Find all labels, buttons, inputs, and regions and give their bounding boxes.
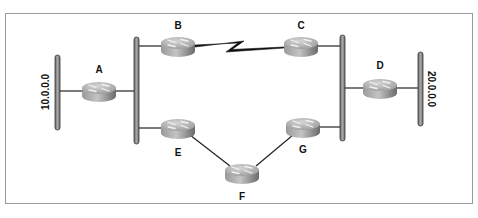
- router-label-f: F: [239, 191, 245, 202]
- bus-bar-right: [340, 35, 345, 141]
- serial-link-b-c: [195, 41, 284, 52]
- network-label-10: 10.0.0.0: [40, 73, 51, 110]
- router-icon: [284, 37, 318, 57]
- router-icon: [363, 79, 397, 99]
- router-label-g: G: [299, 144, 307, 155]
- router-icon: [161, 119, 195, 139]
- network-label-20: 20.0.0.0: [426, 71, 437, 108]
- router-e[interactable]: [161, 119, 195, 139]
- links: [59, 46, 418, 166]
- bus-bar-left: [134, 37, 139, 144]
- link-f-g: [256, 135, 293, 166]
- router-label-d: D: [376, 60, 383, 71]
- router-c[interactable]: [284, 37, 318, 57]
- router-f[interactable]: [225, 164, 259, 184]
- router-icon: [82, 82, 116, 102]
- router-label-b: B: [174, 20, 181, 31]
- router-icon: [286, 118, 320, 138]
- network-bar-20: [418, 52, 423, 126]
- router-label-a: A: [95, 64, 102, 75]
- router-label-e: E: [175, 147, 182, 158]
- router-d[interactable]: [363, 79, 397, 99]
- router-icon: [225, 164, 259, 184]
- router-label-c: C: [297, 20, 304, 31]
- network-bar-10: [55, 55, 60, 130]
- router-b[interactable]: [161, 37, 195, 57]
- network-diagram: 10.0.0.0 20.0.0.0 A B C D E F G: [0, 0, 478, 218]
- link-e-f: [190, 135, 230, 166]
- router-icon: [161, 37, 195, 57]
- router-a[interactable]: [82, 82, 116, 102]
- router-g[interactable]: [286, 118, 320, 138]
